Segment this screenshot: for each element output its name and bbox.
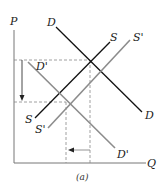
supply-label-bottom: S (25, 113, 33, 126)
new-supply-label-bottom: S' (35, 123, 46, 136)
new-demand-label-top: D' (35, 60, 48, 73)
supply-label-top: S (110, 31, 118, 44)
supply-demand-diagram: P Q D D S S S' S' D' D' (a) (0, 0, 163, 189)
demand-curve (56, 27, 142, 112)
new-supply-curve (48, 40, 130, 128)
demand-label-top: D (46, 16, 56, 29)
y-axis-label: P (9, 15, 18, 28)
figure-caption: (a) (76, 172, 89, 182)
demand-label-bottom: D (144, 109, 154, 122)
quantity-decrease-arrow (68, 148, 90, 153)
new-supply-label-top: S' (133, 31, 144, 44)
x-axis-label: Q (147, 157, 156, 170)
new-demand-label-bottom: D' (116, 148, 129, 161)
price-decrease-arrow (20, 60, 25, 101)
